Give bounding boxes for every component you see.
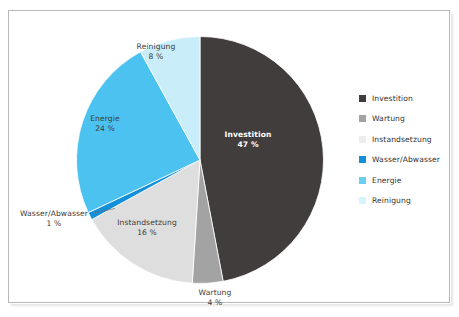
slice-label-reinigung-value: 8 %: [119, 52, 193, 62]
legend-item-instandsetzung[interactable]: Instandsetzung: [359, 129, 459, 150]
legend-label-wasser-abwasser: Wasser/Abwasser: [372, 155, 440, 164]
legend-label-wartung: Wartung: [372, 114, 405, 123]
legend-swatch-wasser-abwasser: [359, 156, 366, 163]
chart-frame: Investition 47 % Reinigung 8 % Energie 2…: [8, 10, 450, 303]
slice-label-wartung-value: 4 %: [182, 298, 248, 308]
legend-item-investition[interactable]: Investition: [359, 88, 459, 109]
legend-item-wasser-abwasser[interactable]: Wasser/Abwasser: [359, 150, 459, 171]
pie-slice-group: [76, 37, 323, 284]
legend-label-instandsetzung: Instandsetzung: [372, 135, 432, 144]
legend-item-reinigung[interactable]: Reinigung: [359, 191, 459, 212]
legend-item-wartung[interactable]: Wartung: [359, 109, 459, 130]
pie-slice-investition: [200, 37, 323, 282]
legend-swatch-investition: [359, 95, 366, 102]
slice-label-reinigung-name: Reinigung: [119, 42, 193, 52]
slice-label-instandsetzung: Instandsetzung 16 %: [99, 218, 195, 237]
slice-label-energie: Energie 24 %: [72, 114, 138, 133]
legend-swatch-energie: [359, 177, 366, 184]
slice-label-energie-name: Energie: [72, 114, 138, 124]
slice-label-wasser-abwasser-value: 1 %: [11, 219, 97, 229]
legend-label-investition: Investition: [372, 94, 413, 103]
slice-label-investition-value: 47 %: [205, 140, 291, 150]
legend-swatch-wartung: [359, 115, 366, 122]
slice-label-investition: Investition 47 %: [205, 130, 291, 149]
slice-label-instandsetzung-name: Instandsetzung: [99, 218, 195, 228]
slice-label-energie-value: 24 %: [72, 124, 138, 134]
slice-label-reinigung: Reinigung 8 %: [119, 42, 193, 61]
slice-label-wartung-name: Wartung: [182, 288, 248, 298]
legend-swatch-reinigung: [359, 197, 366, 204]
slice-label-wasser-abwasser-name: Wasser/Abwasser: [11, 209, 97, 219]
legend-swatch-instandsetzung: [359, 136, 366, 143]
slice-label-wasser-abwasser: Wasser/Abwasser 1 %: [11, 209, 97, 228]
slice-label-wartung: Wartung 4 %: [182, 288, 248, 307]
pie-chart-plot-area: Investition 47 % Reinigung 8 % Energie 2…: [9, 11, 349, 302]
legend-label-energie: Energie: [372, 176, 402, 185]
legend-label-reinigung: Reinigung: [372, 196, 411, 205]
slice-label-investition-name: Investition: [205, 130, 291, 140]
legend-item-energie[interactable]: Energie: [359, 170, 459, 191]
slice-label-instandsetzung-value: 16 %: [99, 228, 195, 238]
chart-legend: InvestitionWartungInstandsetzungWasser/A…: [359, 88, 459, 211]
